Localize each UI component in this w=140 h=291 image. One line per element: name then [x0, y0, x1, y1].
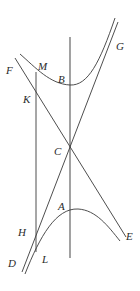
label-D: D — [7, 257, 16, 269]
label-L: L — [41, 253, 48, 265]
upper-branch — [20, 18, 115, 85]
hyperbola-diagram: F M B G K C A E H D L — [0, 0, 140, 291]
label-B: B — [58, 73, 65, 85]
label-H: H — [17, 226, 27, 238]
label-E: E — [125, 230, 133, 242]
label-C: C — [54, 145, 62, 157]
label-F: F — [5, 64, 13, 76]
label-M: M — [37, 60, 48, 72]
label-G: G — [116, 40, 124, 52]
label-K: K — [22, 93, 31, 105]
label-A: A — [57, 200, 65, 212]
lower-branch — [25, 209, 120, 274]
